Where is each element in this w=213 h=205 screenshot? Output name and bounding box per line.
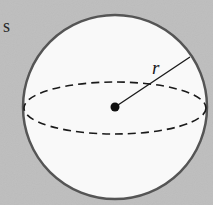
radius-label: r — [152, 57, 160, 78]
partial-text: s — [3, 16, 10, 36]
center-point — [111, 103, 120, 112]
sphere-diagram: s r — [0, 0, 213, 205]
